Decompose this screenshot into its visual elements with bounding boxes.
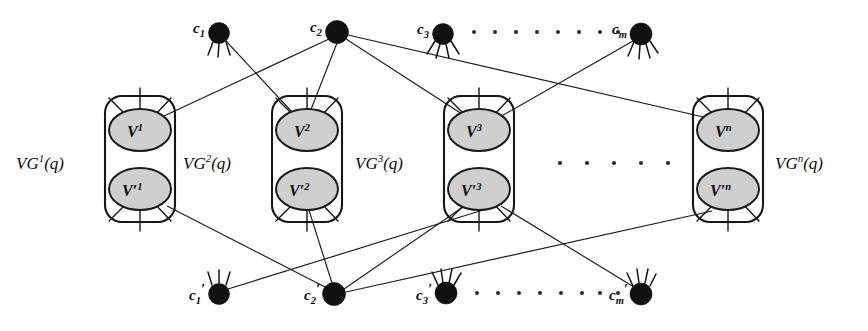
ellipsis-dot <box>538 291 542 295</box>
bottom-ellipsis <box>475 291 620 295</box>
clause-label-c3-prime: c3′ <box>416 281 432 306</box>
figure-canvas: V1 V′1 VG1(q) V2 V′2 <box>0 0 868 331</box>
reduction-diagram: V1 V′1 VG1(q) V2 V′2 <box>0 0 868 331</box>
spike <box>646 44 650 58</box>
spike <box>650 274 656 286</box>
gadget-label-VG3: VG3(q) <box>355 152 403 173</box>
spike <box>226 272 230 285</box>
gadget-label-VG1: VG1(q) <box>16 152 64 173</box>
ellipsis-dot <box>612 161 616 165</box>
ellipsis-dot <box>475 291 479 295</box>
spike <box>628 42 634 56</box>
ellipsis-dot <box>598 30 602 34</box>
ellipsis-dot <box>493 30 497 34</box>
ellipsis-dot <box>580 291 584 295</box>
ellipsis-dot <box>577 30 581 34</box>
clause-dot-cm-prime[interactable] <box>630 283 652 305</box>
ellipsis-dot <box>666 161 670 165</box>
spike <box>432 272 438 285</box>
edge-c2-V3 <box>346 39 462 114</box>
spike <box>650 41 658 53</box>
ellipsis-dot <box>514 30 518 34</box>
clause-dot-c2[interactable] <box>326 21 349 44</box>
spike <box>637 269 639 283</box>
clause-node-c1[interactable]: c1 <box>193 20 230 57</box>
clause-dot-c1[interactable] <box>209 23 230 44</box>
clause-dot-c3[interactable] <box>433 24 454 45</box>
middle-ellipsis <box>558 161 670 165</box>
spike <box>208 42 213 55</box>
ellipsis-dot <box>472 30 476 34</box>
clause-label-c3: c3 <box>417 21 429 40</box>
spike <box>454 273 461 285</box>
clause-node-cm-prime[interactable]: cm′ <box>609 269 656 306</box>
clause-node-c2-prime[interactable]: c2′ <box>304 281 346 306</box>
ellipsis-dot <box>598 291 602 295</box>
ellipsis-dot <box>496 291 500 295</box>
clause-label-c1-prime: c1′ <box>189 281 205 306</box>
ellipsis-dot <box>535 30 539 34</box>
edge-cm-V3 <box>498 41 633 118</box>
spike <box>451 41 459 54</box>
ellipsis-dot <box>639 161 643 165</box>
ellipsis-dot <box>616 291 620 295</box>
clause-dot-cm[interactable] <box>630 23 652 45</box>
clause-label-c2-prime: c2′ <box>304 281 320 306</box>
clause-node-c2[interactable]: c2 <box>310 19 349 44</box>
gadget-label-VGn: VGn(q) <box>775 152 823 173</box>
spike <box>427 41 435 54</box>
spike <box>446 44 449 58</box>
gadget-label-VG2: VG2(q) <box>183 152 231 173</box>
spike <box>645 269 648 283</box>
spike <box>218 44 219 57</box>
clause-node-cm[interactable]: cm <box>612 21 658 59</box>
edge-cmp-V3p <box>501 206 634 287</box>
ellipsis-dot <box>585 161 589 165</box>
top-ellipsis <box>472 30 620 34</box>
clause-dot-c2-prime[interactable] <box>323 283 346 306</box>
clause-label-c2: c2 <box>310 19 323 38</box>
ellipsis-dot <box>559 291 563 295</box>
gadget-VG2[interactable]: V2 V′2 VG2(q) <box>183 88 342 231</box>
spike <box>449 269 452 283</box>
edge-c2-Vn <box>348 35 712 119</box>
ellipsis-dot <box>517 291 521 295</box>
clause-label-cm: cm <box>612 21 627 40</box>
clause-node-c1-prime[interactable]: c1′ <box>189 270 230 306</box>
clause-dot-c3-prime[interactable] <box>435 282 457 304</box>
ellipsis-dot <box>616 30 620 34</box>
ellipsis-dot <box>558 161 562 165</box>
clause-label-c1: c1 <box>193 20 205 39</box>
clause-dot-c1-prime[interactable] <box>209 284 230 305</box>
edge-group-top <box>164 35 712 119</box>
gadget-VGn[interactable]: Vn V′n VGn(q) <box>693 88 823 231</box>
spike <box>208 272 212 285</box>
spike <box>639 45 640 59</box>
gadget-VG3[interactable]: V3 V′3 VG3(q) <box>355 88 514 231</box>
ellipsis-dot <box>556 30 560 34</box>
gadget-VG1[interactable]: V1 V′1 VG1(q) <box>16 88 175 231</box>
